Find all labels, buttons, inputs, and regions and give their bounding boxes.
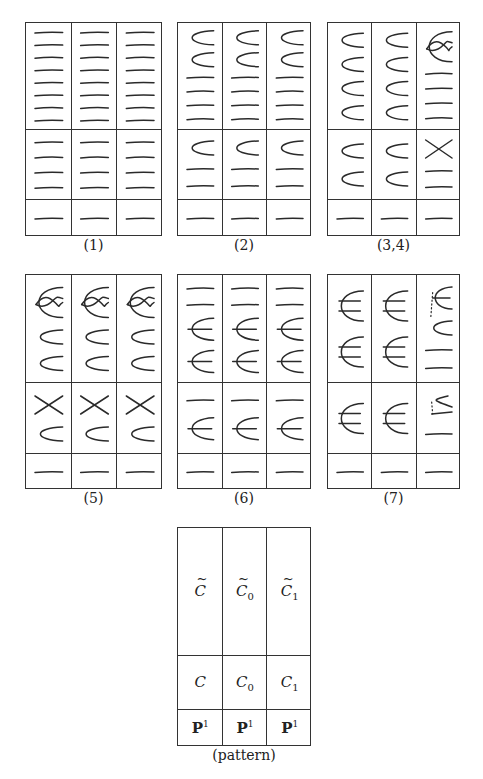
curve-sketches	[178, 275, 312, 490]
curve-component-l	[126, 45, 154, 46]
curve-component-c	[86, 357, 108, 371]
figure-panel-2	[177, 22, 311, 236]
curve-component-l	[126, 57, 154, 58]
curve-component-l	[337, 472, 363, 473]
curve-component-c	[342, 106, 363, 120]
panel-caption: (pattern)	[174, 747, 314, 763]
curve-component-l	[232, 77, 259, 78]
curve-component-c	[342, 144, 363, 158]
curve-tilde-symbol: C0	[223, 582, 268, 602]
figure-panel-1	[25, 22, 162, 236]
curve-component-l	[232, 169, 259, 170]
curve-component-l	[232, 105, 259, 106]
curve-component-l	[276, 400, 303, 401]
curve-component-l	[187, 91, 214, 92]
curve-component-c	[386, 33, 407, 47]
curve-component-c	[132, 330, 154, 344]
curve-component-l	[276, 169, 303, 170]
curve-component-l	[81, 57, 109, 58]
curve-component-c	[132, 357, 154, 371]
curve-component-l	[426, 88, 452, 89]
curve-component-l	[381, 472, 407, 473]
curve-component-l	[81, 157, 109, 158]
curve-component-E	[341, 337, 363, 367]
curve-component-l	[232, 304, 259, 305]
curve-component-c	[192, 141, 214, 155]
curve-component-l	[126, 218, 154, 219]
curve-component-l	[232, 400, 259, 401]
curve-component-l	[126, 108, 154, 109]
curve-component-c	[342, 172, 363, 186]
curve-component-l	[187, 472, 214, 473]
curve-component-l	[81, 142, 109, 143]
pattern-cell: C0	[223, 656, 268, 710]
curve-component-l	[232, 91, 259, 92]
curve-component-c	[192, 31, 214, 45]
curve-component-l	[126, 172, 154, 173]
curve-component-c	[237, 31, 259, 45]
curve-component-l	[126, 120, 154, 121]
curve-component-l	[81, 172, 109, 173]
curve-tilde-symbol: C1	[267, 582, 312, 602]
curve-component-l	[426, 350, 452, 351]
curve-component-l	[426, 434, 452, 435]
curve-component-l	[276, 186, 303, 187]
curve-component-l	[35, 108, 63, 109]
curve-component-l	[276, 288, 303, 289]
curve-component-c	[282, 53, 304, 67]
pattern-cell: C1	[267, 528, 312, 656]
projective-line-symbol: P1	[267, 719, 312, 737]
curve-component-l	[35, 187, 63, 188]
figure-panel-pattern: CC0C1CC0C1P1P1P1	[177, 527, 311, 746]
curve-component-l	[126, 95, 154, 96]
curve-component-c	[40, 330, 62, 344]
curve-component-c	[192, 53, 214, 67]
panel-caption: (7)	[324, 490, 464, 506]
projective-line-symbol: P1	[223, 719, 268, 737]
curve-component-l	[126, 142, 154, 143]
curve-component-l	[81, 187, 109, 188]
curve-component-c	[282, 141, 304, 155]
curve-component-c	[386, 106, 407, 120]
curve-component-l	[426, 218, 452, 219]
figure-panel-5	[25, 274, 162, 489]
curve-component-E	[386, 337, 408, 367]
curve-component-l	[126, 187, 154, 188]
curve-component-l	[126, 70, 154, 71]
curve-component-l	[126, 157, 154, 158]
figure-panel-3-4	[327, 22, 460, 236]
curve-component-l	[187, 119, 214, 120]
curve-component-c-dot-l	[436, 396, 452, 407]
curve-component-c-dot-l	[432, 412, 452, 414]
curve-component-l	[426, 103, 452, 104]
curve-component-l	[187, 169, 214, 170]
curve-component-c-dot-l	[432, 402, 433, 414]
curve-component-l	[187, 288, 214, 289]
curve-component-l	[81, 45, 109, 46]
curve-component-l	[81, 70, 109, 71]
curve-component-c	[237, 141, 259, 155]
curve-component-c	[386, 144, 407, 158]
curve-component-c	[86, 330, 108, 344]
panel-caption: (1)	[24, 237, 164, 253]
curve-component-l	[232, 119, 259, 120]
curve-component-l	[35, 45, 63, 46]
curve-component-l	[81, 82, 109, 83]
curve-component-l	[426, 472, 452, 473]
pattern-cell: C1	[267, 656, 312, 710]
curve-component-l	[426, 368, 452, 369]
curve-component-c	[282, 31, 304, 45]
panel-caption: (6)	[174, 490, 314, 506]
curve-component-E	[386, 291, 408, 321]
curve-component-l	[276, 304, 303, 305]
curve-symbol: C0	[223, 673, 268, 693]
curve-sketches	[328, 23, 461, 237]
curve-component-l	[35, 57, 63, 58]
pattern-cell: P1	[223, 710, 268, 747]
curve-component-l	[276, 91, 303, 92]
curve-component-l	[35, 32, 63, 33]
curve-component-l	[81, 472, 109, 473]
curve-component-l	[35, 95, 63, 96]
curve-component-l	[81, 95, 109, 96]
curve-component-l	[187, 304, 214, 305]
